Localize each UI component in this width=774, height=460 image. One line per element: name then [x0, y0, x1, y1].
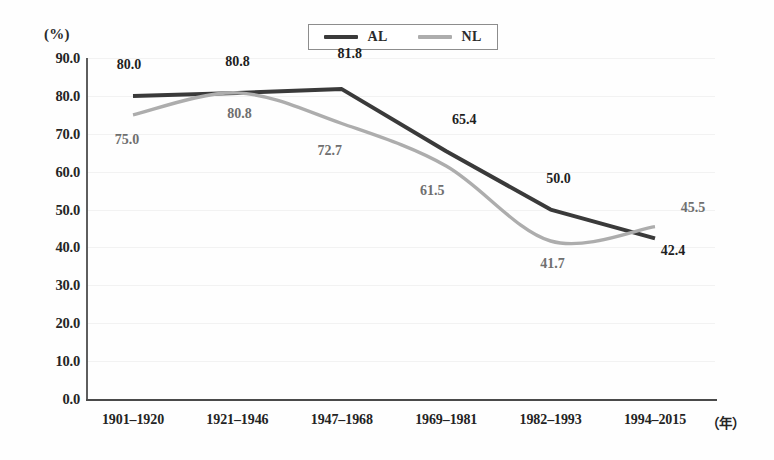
data-label-al: 42.4	[638, 243, 708, 259]
series-lines	[86, 58, 715, 399]
y-tick-label: 0.0	[26, 391, 80, 408]
y-tick-label: 30.0	[26, 277, 80, 294]
legend-swatch-al-icon	[324, 35, 358, 39]
y-tick-label: 80.0	[26, 87, 80, 104]
y-tick-label: 70.0	[26, 125, 80, 142]
legend-swatch-nl-icon	[418, 35, 452, 39]
data-label-al: 80.8	[202, 54, 272, 70]
data-label-al: 80.0	[94, 57, 164, 73]
y-tick-label: 60.0	[26, 163, 80, 180]
data-label-al: 81.8	[315, 46, 385, 62]
x-axis-line	[86, 399, 717, 401]
legend-label-nl: NL	[461, 29, 481, 45]
data-label-nl: 61.5	[397, 183, 467, 199]
data-label-al: 50.0	[524, 171, 594, 187]
x-axis-tick-labels: 1901–19201921–19461947–19681969–19811982…	[0, 412, 774, 436]
data-label-nl: 75.0	[92, 132, 162, 148]
data-label-nl: 80.8	[204, 106, 274, 122]
legend-item-nl[interactable]: NL	[418, 29, 481, 45]
chart-container: (%) AL NL 80.080.881.865.450.042.475.080…	[0, 0, 774, 460]
plot-area: 80.080.881.865.450.042.475.080.872.761.5…	[86, 58, 715, 399]
data-label-nl: 72.7	[295, 143, 365, 159]
y-tick-label: 10.0	[26, 353, 80, 370]
y-tick-label: 40.0	[26, 239, 80, 256]
data-label-nl: 41.7	[518, 256, 588, 272]
y-tick-label: 20.0	[26, 315, 80, 332]
data-label-al: 65.4	[429, 112, 499, 128]
y-axis-tick-labels: 90.080.070.060.050.040.030.020.010.00.0	[18, 58, 80, 399]
y-axis-line	[86, 58, 88, 401]
y-tick-label: 50.0	[26, 201, 80, 218]
x-tick-label: 1994–2015	[595, 412, 715, 428]
y-tick-label: 90.0	[26, 50, 80, 67]
legend-item-al[interactable]: AL	[324, 29, 387, 45]
x-tick-label: 1969–1981	[386, 412, 506, 428]
x-tick-label: 1947–1968	[282, 412, 402, 428]
legend-label-al: AL	[367, 29, 387, 45]
x-tick-label: 1982–1993	[491, 412, 611, 428]
data-label-nl: 45.5	[658, 200, 728, 216]
x-tick-label: 1921–1946	[177, 412, 297, 428]
x-tick-label: 1901–1920	[73, 412, 193, 428]
y-axis-unit-label: (%)	[44, 26, 70, 43]
x-axis-unit-label: （年）	[706, 412, 745, 432]
